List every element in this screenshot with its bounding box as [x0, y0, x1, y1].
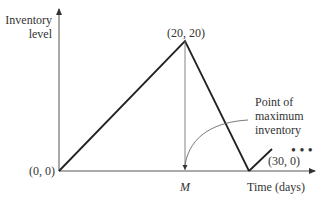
annotation-line3: inventory — [255, 123, 301, 137]
annotation-curve — [185, 120, 248, 165]
annotation-line2: maximum — [255, 109, 304, 123]
m-label: M — [179, 180, 191, 194]
inventory-line — [59, 41, 249, 171]
y-axis-label-line2: level — [29, 27, 53, 41]
inventory-diagram: Inventory level (20, 20) (0, 0) (30, 0) … — [0, 0, 323, 198]
origin-label: (0, 0) — [29, 164, 55, 178]
y-axis-label-line1: Inventory — [5, 13, 52, 27]
peak-label: (20, 20) — [167, 26, 205, 40]
x-axis-label: Time (days) — [247, 180, 305, 194]
continuation-dots: • • • — [291, 143, 313, 158]
annotation-line1: Point of — [255, 95, 293, 109]
